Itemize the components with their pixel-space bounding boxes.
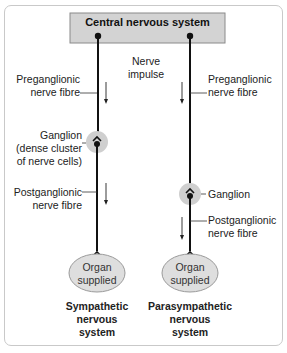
cns-title: Central nervous system: [70, 16, 225, 28]
label-line: Postganglionic: [208, 214, 276, 227]
label-line: nervous: [140, 313, 240, 326]
label-line: Preganglionic: [4, 73, 80, 86]
parasympathetic-ganglion-label: Ganglion: [208, 188, 250, 201]
sympathetic-ganglion-label: Ganglion (dense cluster of nerve cells): [4, 129, 82, 168]
label-line: Ganglion: [4, 129, 82, 142]
label-line: Sympathetic: [52, 300, 142, 313]
label-line: Parasympathetic: [140, 300, 240, 313]
parasympathetic-title: Parasympathetic nervous system: [140, 300, 240, 339]
nerve-impulse-label: Nerve impulse: [128, 55, 164, 81]
label-line: supplied: [160, 274, 220, 287]
parasympathetic-organ-label: Organ supplied: [160, 261, 220, 287]
label-line: (dense cluster: [4, 142, 82, 155]
label-line: Postganglionic: [4, 186, 82, 199]
label-line: nerve fibre: [208, 227, 276, 240]
sympathetic-postganglionic-label: Postganglionic nerve fibre: [4, 186, 82, 212]
label-line: nerve fibre: [4, 86, 80, 99]
parasympathetic-preganglionic-label: Preganglionic nerve fibre: [208, 73, 272, 99]
label-line: Ganglion: [208, 188, 250, 201]
label-line: Organ: [67, 261, 127, 274]
sympathetic-pathway: [80, 33, 108, 257]
parasympathetic-postganglionic-label: Postganglionic nerve fibre: [208, 214, 276, 240]
label-line: Organ: [160, 261, 220, 274]
sympathetic-title: Sympathetic nervous system: [52, 300, 142, 339]
label-line: of nerve cells): [4, 155, 82, 168]
nerve-impulse-line1: Nerve: [128, 55, 164, 68]
sympathetic-organ-label: Organ supplied: [67, 261, 127, 287]
nerve-impulse-line2: impulse: [128, 68, 164, 81]
label-line: nerve fibre: [208, 86, 272, 99]
label-line: supplied: [67, 274, 127, 287]
label-line: Preganglionic: [208, 73, 272, 86]
label-line: nerve fibre: [4, 199, 82, 212]
label-line: system: [52, 326, 142, 339]
label-line: system: [140, 326, 240, 339]
parasympathetic-pathway: [179, 33, 207, 257]
sympathetic-preganglionic-label: Preganglionic nerve fibre: [4, 73, 80, 99]
label-line: nervous: [52, 313, 142, 326]
